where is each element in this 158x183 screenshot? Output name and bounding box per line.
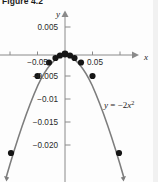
x-tick-label-1: 0.05 bbox=[87, 58, 103, 67]
page-margin-strip bbox=[153, 0, 158, 182]
data-point bbox=[71, 55, 77, 61]
y-tick-label-3: −0.015 bbox=[33, 118, 59, 127]
data-point bbox=[89, 73, 95, 79]
data-point bbox=[116, 150, 122, 156]
curve-arrow-left bbox=[4, 176, 9, 182]
data-point bbox=[8, 150, 14, 156]
eq-exponent: 2 bbox=[131, 99, 134, 106]
y-tick-label-2: −0.01 bbox=[37, 95, 58, 104]
eq-equals: = −2 bbox=[108, 100, 127, 110]
parabola-plot: 0.005 −0.005 −0.01 −0.015 −0.020 −0.05 0… bbox=[0, 0, 158, 182]
data-point bbox=[78, 59, 84, 65]
x-axis-label: x bbox=[143, 52, 148, 62]
y-axis-label: y bbox=[55, 9, 60, 19]
figure-container: Figure 4.2 bbox=[0, 0, 158, 182]
x-tick-label-0: −0.05 bbox=[27, 58, 48, 67]
curve-equation-label: y = −2x2 bbox=[103, 99, 134, 110]
curve-arrow-right bbox=[121, 176, 126, 182]
y-tick-label-1: −0.005 bbox=[33, 72, 59, 81]
y-tick-label-4: −0.020 bbox=[33, 141, 59, 150]
y-tick-label-0: 0.005 bbox=[38, 23, 59, 32]
y-axis bbox=[62, 11, 71, 183]
